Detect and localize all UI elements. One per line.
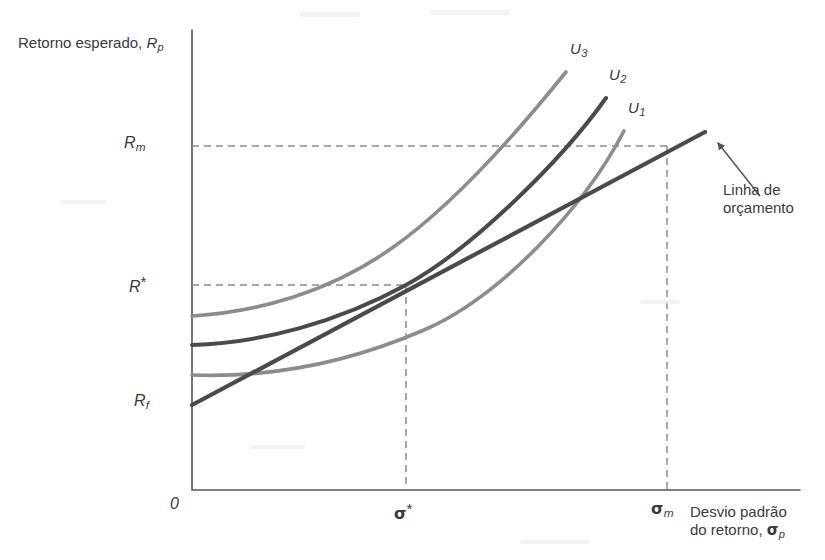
y-tick-label-Rm: Rm <box>124 134 146 155</box>
axis-lines <box>192 30 800 490</box>
origin-label: 0 <box>170 495 179 514</box>
figure-container: Retorno esperado, Rp Desvio padrão do re… <box>0 0 825 560</box>
budget-line-annotation: Linha de orçamento <box>723 181 794 216</box>
x-axis-title: Desvio padrão do retorno, σp <box>690 503 787 541</box>
curve-U3 <box>192 72 566 316</box>
x-axis-title-line2: do retorno, σp <box>690 521 787 541</box>
curve-label-U2: U2 <box>609 66 626 86</box>
x-axis-title-line1: Desvio padrão <box>690 503 787 521</box>
indifference-curves <box>192 72 624 375</box>
y-axis-title: Retorno esperado, Rp <box>18 34 164 54</box>
x-tick-label-sigma-m: σm <box>651 500 674 521</box>
budget-line-annotation-line1: Linha de <box>723 181 794 199</box>
budget-line <box>192 132 705 405</box>
diagram-canvas <box>0 0 825 560</box>
y-tick-label-R-star: R* <box>129 273 146 296</box>
x-tick-label-sigma-star: σ* <box>394 500 412 523</box>
budget-line-annotation-line2: orçamento <box>723 199 794 217</box>
curve-label-U1: U1 <box>628 99 645 119</box>
y-axis-subscript: p <box>157 41 163 53</box>
x-axis-subscript: p <box>778 528 784 540</box>
y-tick-label-Rf: Rf <box>134 392 149 413</box>
curve-label-U3: U3 <box>570 40 587 60</box>
guide-lines <box>192 146 667 490</box>
x-axis-sigma-symbol: σ <box>767 521 779 539</box>
y-axis-symbol: R <box>146 34 157 51</box>
